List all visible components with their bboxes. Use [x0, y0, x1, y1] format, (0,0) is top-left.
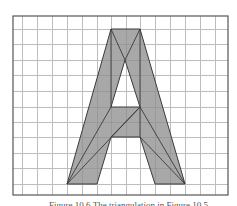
caption-text: Figure 10.6 The triangulation in Figure …: [49, 200, 208, 206]
figure-caption: Figure 10.6 The triangulation in Figure …: [0, 198, 237, 206]
letter-a-triangulation-diagram: [0, 0, 237, 206]
